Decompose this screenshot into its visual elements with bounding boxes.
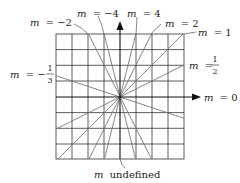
svg-text:m =: m = [189,60,213,71]
svg-text:1: 1 [212,55,217,64]
svg-text:3: 3 [47,76,52,85]
label-m-neg4: m = −4 [77,8,119,19]
y-axis-arrow-icon [117,21,124,30]
leader-undefined [120,159,125,168]
svg-text:m = −: m = − [10,69,46,80]
svg-text:1: 1 [47,64,52,73]
label-m-neg2: m = −2 [30,17,72,28]
label-m-undefined: m undefined [94,169,161,180]
axes [56,27,195,159]
label-m-2: m = 2 [165,18,199,29]
x-axis-arrow-icon [192,94,201,101]
slope-diagram: m = −2 m = −4 m = 4 m = 2 m = 1 m = 1 2 … [0,0,240,183]
svg-text:2: 2 [212,67,217,76]
label-m-neg-third: m = − 1 3 [10,64,54,85]
label-m-half: m = 1 2 [189,55,219,76]
label-m-0: m = 0 [204,92,238,103]
label-m-1: m = 1 [198,27,232,38]
label-m-4: m = 4 [127,8,161,19]
